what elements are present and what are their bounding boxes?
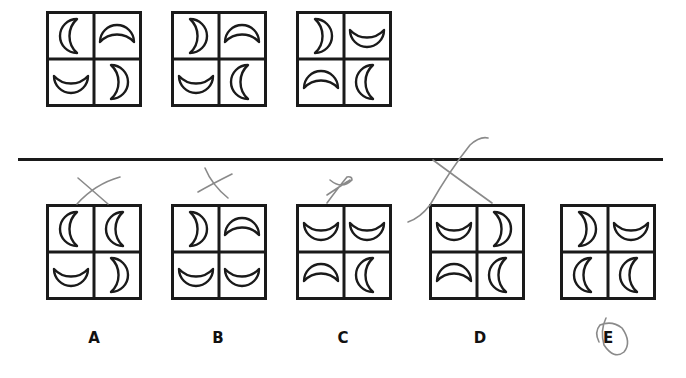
option-a-panel[interactable]: [46, 204, 142, 300]
cross-mark-b: [198, 168, 232, 198]
crescent-open-right-icon: [106, 212, 123, 246]
crescent-grid: [296, 11, 392, 107]
option-d-label: D: [460, 329, 500, 347]
option-b-label: B: [198, 329, 238, 347]
option-c-label: C: [323, 329, 363, 347]
option-b-panel[interactable]: [171, 204, 267, 300]
option-e-panel[interactable]: [560, 204, 656, 300]
crescent-open-up-icon: [179, 76, 213, 93]
crescent-open-down-icon: [100, 25, 134, 42]
crescent-grid: [560, 204, 656, 300]
divider-line: [18, 158, 663, 161]
crescent-open-down-icon: [225, 25, 259, 42]
crescent-grid: [46, 204, 142, 300]
option-d-panel[interactable]: [429, 204, 525, 300]
crescent-open-right-icon: [489, 258, 506, 292]
crescent-grid: [46, 11, 142, 107]
crescent-open-down-icon: [437, 264, 471, 281]
crescent-grid: [171, 11, 267, 107]
crescent-grid: [171, 204, 267, 300]
question-panel-2: [171, 11, 267, 107]
option-e-label: E: [588, 329, 628, 347]
crescent-open-up-icon: [54, 269, 88, 286]
crescent-open-left-icon: [190, 212, 207, 246]
crescent-open-down-icon: [225, 218, 259, 235]
crescent-open-up-icon: [614, 223, 648, 240]
crescent-open-up-icon: [350, 30, 384, 47]
option-a-label: A: [74, 329, 114, 347]
cross-mark-c: [327, 177, 352, 203]
crescent-open-up-icon: [54, 76, 88, 93]
crescent-open-down-icon: [304, 71, 338, 88]
question-panel-1: [46, 11, 142, 107]
crescent-open-up-icon: [225, 269, 259, 286]
crescent-open-down-icon: [304, 264, 338, 281]
crescent-open-left-icon: [579, 212, 596, 246]
crescent-grid: [296, 204, 392, 300]
crescent-open-up-icon: [350, 223, 384, 240]
crescent-open-right-icon: [356, 258, 373, 292]
option-c-panel[interactable]: [296, 204, 392, 300]
crescent-open-left-icon: [111, 258, 128, 292]
crescent-open-right-icon: [620, 258, 637, 292]
crescent-open-up-icon: [304, 223, 338, 240]
crescent-open-up-icon: [179, 269, 213, 286]
crescent-open-left-icon: [111, 65, 128, 99]
crescent-open-up-icon: [437, 223, 471, 240]
crescent-grid: [429, 204, 525, 300]
question-panel-3: [296, 11, 392, 107]
crescent-open-right-icon: [60, 19, 77, 53]
crescent-open-left-icon: [494, 212, 511, 246]
crescent-open-left-icon: [315, 19, 332, 53]
crescent-open-right-icon: [231, 65, 248, 99]
crescent-open-right-icon: [60, 212, 77, 246]
crescent-open-right-icon: [574, 258, 591, 292]
crescent-open-right-icon: [356, 65, 373, 99]
cross-mark-a: [77, 177, 120, 204]
crescent-open-left-icon: [190, 19, 207, 53]
